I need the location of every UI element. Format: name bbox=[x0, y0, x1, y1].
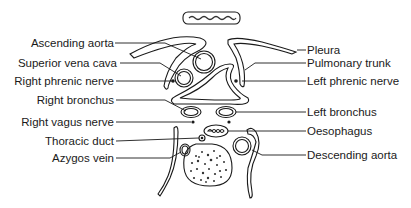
thorax-cross-section-diagram: Ascending aorta Superior vena cava Right… bbox=[0, 0, 411, 208]
right-vagus-nerve-dot bbox=[191, 120, 194, 123]
right-lower-pleura bbox=[247, 128, 259, 198]
label-right-phrenic-nerve: Right phrenic nerve bbox=[14, 75, 114, 87]
vertebral-body bbox=[184, 144, 232, 186]
label-pleura: Pleura bbox=[307, 44, 341, 56]
label-pulmonary-trunk: Pulmonary trunk bbox=[307, 57, 391, 69]
label-superior-vena-cava: Superior vena cava bbox=[18, 57, 118, 69]
label-left-phrenic-nerve: Left phrenic nerve bbox=[307, 75, 399, 87]
descending-aorta-shape bbox=[233, 137, 251, 155]
label-right-vagus-nerve: Right vagus nerve bbox=[21, 116, 114, 128]
leader-lines-left bbox=[115, 43, 201, 158]
left-lower-pleura bbox=[158, 127, 178, 196]
label-ascending-aorta: Ascending aorta bbox=[31, 37, 115, 49]
oesophagus-shape bbox=[204, 125, 228, 137]
right-pleura-outline bbox=[228, 38, 296, 86]
left-phrenic-nerve-dot bbox=[234, 79, 238, 83]
ascending-aorta-shape bbox=[193, 51, 215, 73]
label-azygos-vein: Azygos vein bbox=[52, 152, 114, 164]
thoracic-duct-shape bbox=[199, 135, 205, 141]
left-vagus-nerve-dot bbox=[227, 120, 230, 123]
right-bronchus-shape bbox=[181, 107, 201, 118]
label-descending-aorta: Descending aorta bbox=[307, 149, 398, 161]
top-label-box bbox=[183, 12, 240, 24]
label-left-bronchus: Left bronchus bbox=[307, 106, 377, 118]
left-bronchus-shape bbox=[216, 107, 236, 118]
label-thoracic-duct: Thoracic duct bbox=[45, 135, 115, 147]
leader-lines-right bbox=[228, 50, 306, 155]
superior-vena-cava-shape bbox=[175, 69, 193, 87]
label-right-bronchus: Right bronchus bbox=[37, 94, 115, 106]
label-oesophagus: Oesophagus bbox=[307, 125, 372, 137]
